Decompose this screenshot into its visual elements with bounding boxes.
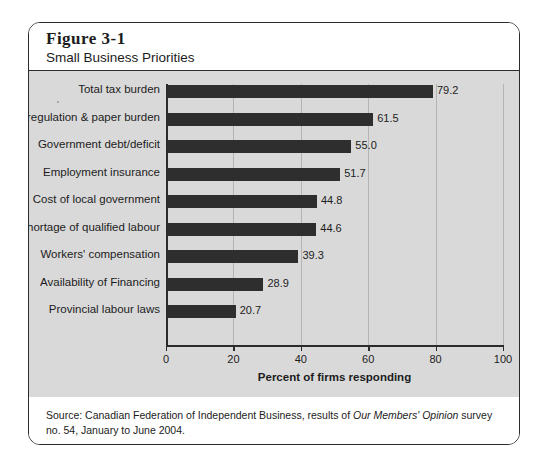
figure-header: Figure 3-1 Small Business Priorities: [29, 23, 519, 71]
category-label-wrap: Employment insurance: [28, 168, 160, 181]
source-italic-title: Our Members' Opinion: [353, 409, 458, 421]
bar-row: 44.6Shortage of qualified labour: [166, 223, 503, 236]
category-label: Employment insurance: [28, 166, 160, 178]
source-region: Source: Canadian Federation of Independe…: [29, 397, 519, 444]
category-label: Total tax burden: [28, 83, 160, 95]
category-label-wrap: Shortage of qualified labour: [28, 223, 160, 236]
bar-value-label: 28.9: [267, 277, 288, 289]
bar-value-label: 51.7: [344, 167, 365, 179]
x-axis-title: Percent of firms responding: [166, 371, 503, 383]
y-axis-line: [166, 84, 168, 345]
category-label-wrap: Availability of Financing: [28, 278, 160, 291]
source-prefix: Source: Canadian Federation of Independe…: [46, 409, 353, 421]
figure-number: Figure 3-1: [46, 28, 519, 49]
source-note: Source: Canadian Federation of Independe…: [46, 408, 497, 438]
gridline: [503, 84, 504, 345]
bar-row: 44.8Cost of local government: [166, 195, 503, 208]
x-tick-label: 40: [295, 353, 307, 365]
bar-value-label: 20.7: [240, 304, 261, 316]
figure-frame: Figure 3-1 Small Business Priorities 79.…: [28, 22, 520, 445]
category-label-wrap: Cost of local government: [28, 195, 160, 208]
bar-value-label: 55.0: [355, 139, 376, 151]
category-label: Cost of local government: [28, 193, 160, 205]
figure-title: Small Business Priorities: [46, 49, 519, 67]
x-tick-label: 0: [163, 353, 169, 365]
x-tick: [436, 345, 437, 351]
category-label: Government debt/deficit: [28, 138, 160, 150]
chart-region: 79.2Total tax burden61.5Gov't regulation…: [29, 71, 519, 398]
x-tick-label: 20: [227, 353, 239, 365]
bar: [166, 223, 316, 236]
category-label-wrap: Total tax burden: [28, 85, 160, 98]
bar: [166, 250, 298, 263]
bar-value-label: 44.6: [320, 222, 341, 234]
bar-value-label: 61.5: [377, 112, 398, 124]
bar-row: 51.7Employment insurance: [166, 168, 503, 181]
x-tick: [166, 345, 167, 351]
x-tick-label: 80: [429, 353, 441, 365]
bar: [166, 195, 317, 208]
category-label-wrap: Workers' compensation: [28, 250, 160, 263]
category-label-wrap: Gov't regulation & paper burden: [28, 113, 160, 126]
bar-row: 39.3Workers' compensation: [166, 250, 503, 263]
x-tick-label: 100: [494, 353, 512, 365]
category-label: Provincial labour laws: [28, 303, 160, 315]
bar-row: 61.5Gov't regulation & paper burden: [166, 113, 503, 126]
category-label-wrap: Provincial labour laws: [28, 305, 160, 318]
bar: [166, 85, 433, 98]
bar-row: 55.0Government debt/deficit: [166, 140, 503, 153]
bar-row: 20.7Provincial labour laws: [166, 305, 503, 318]
x-tick-label: 60: [362, 353, 374, 365]
x-tick: [233, 345, 234, 351]
category-label-wrap: Government debt/deficit: [28, 140, 160, 153]
x-tick: [368, 345, 369, 351]
bar: [166, 278, 263, 291]
category-label: Gov't regulation & paper burden: [28, 111, 160, 123]
bar: [166, 113, 373, 126]
category-label: Shortage of qualified labour: [28, 221, 160, 233]
plot-area: 79.2Total tax burden61.5Gov't regulation…: [166, 84, 503, 345]
bar-value-label: 79.2: [437, 84, 458, 96]
x-tick: [503, 345, 504, 351]
bar-row: 28.9Availability of Financing: [166, 278, 503, 291]
bar-row: 79.2Total tax burden: [166, 85, 503, 98]
category-label: Availability of Financing: [28, 276, 160, 288]
bar: [166, 305, 236, 318]
bar-value-label: 44.8: [321, 194, 342, 206]
x-tick: [301, 345, 302, 351]
bar: [166, 168, 340, 181]
bar-value-label: 39.3: [302, 249, 323, 261]
scan-artifact-dot: [57, 101, 59, 103]
bar: [166, 140, 351, 153]
category-label: Workers' compensation: [28, 248, 160, 260]
x-axis-line: [166, 345, 503, 347]
